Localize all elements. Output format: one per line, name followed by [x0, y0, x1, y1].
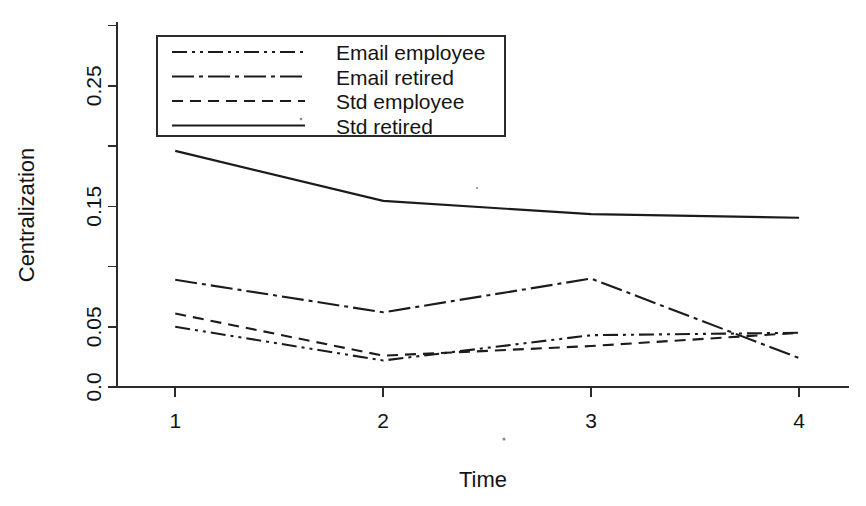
x-axis-tick-label: 3	[585, 409, 597, 432]
data-series-group	[175, 151, 799, 361]
y-axis-tick-marks	[108, 26, 117, 387]
legend-label: Std retired	[336, 115, 433, 138]
x-axis-tick-marks	[175, 387, 799, 397]
scan-speck	[300, 118, 303, 121]
y-axis-tick-labels: 0.00.050.150.25	[82, 65, 105, 401]
x-axis-tick-labels: 1234	[169, 409, 805, 432]
scan-speck	[476, 187, 478, 189]
y-axis-tick-label: 0.25	[82, 65, 105, 106]
x-axis-tick-label: 2	[377, 409, 389, 432]
y-axis-title: Centralization	[14, 148, 39, 283]
series-line-std-retired	[175, 151, 799, 218]
legend-label: Email employee	[336, 41, 485, 64]
x-axis-title: Time	[459, 467, 507, 492]
x-axis-tick-label: 4	[793, 409, 805, 432]
scan-speck	[502, 437, 505, 440]
x-axis-tick-label: 1	[169, 409, 181, 432]
chart-legend: Email employeeEmail retiredStd employeeS…	[157, 36, 505, 138]
y-axis-tick-label: 0.05	[82, 306, 105, 347]
y-axis-tick-label: 0.0	[82, 372, 105, 401]
chart-canvas: Centralization 0.00.050.150.25 1234 Time…	[0, 0, 866, 506]
series-line-email-retired	[175, 279, 799, 359]
legend-label: Std employee	[336, 90, 464, 113]
legend-label: Email retired	[336, 66, 454, 89]
centralization-line-chart: Centralization 0.00.050.150.25 1234 Time…	[0, 0, 866, 506]
y-axis-tick-label: 0.15	[82, 186, 105, 227]
